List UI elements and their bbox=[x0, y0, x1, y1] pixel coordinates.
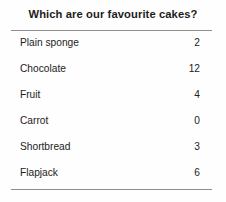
table-bottom-rule bbox=[11, 189, 212, 190]
frequency-table-document: Which are our favourite cakes? Plain spo… bbox=[0, 0, 226, 202]
row-value: 0 bbox=[150, 115, 200, 126]
row-label: Fruit bbox=[20, 89, 40, 100]
table-body: Plain sponge 2 Chocolate 12 Fruit 4 Carr… bbox=[0, 30, 226, 186]
table-row: Flapjack 6 bbox=[0, 160, 226, 186]
table-row: Plain sponge 2 bbox=[0, 30, 226, 56]
row-label: Flapjack bbox=[20, 167, 58, 178]
row-label: Plain sponge bbox=[20, 37, 79, 48]
row-value: 4 bbox=[150, 89, 200, 100]
table-row: Chocolate 12 bbox=[0, 56, 226, 82]
row-value: 12 bbox=[150, 63, 200, 74]
row-value: 6 bbox=[150, 167, 200, 178]
row-value: 2 bbox=[150, 37, 200, 48]
row-label: Carrot bbox=[20, 115, 48, 126]
page-title: Which are our favourite cakes? bbox=[0, 8, 226, 20]
row-value: 3 bbox=[150, 141, 200, 152]
table-row: Shortbread 3 bbox=[0, 134, 226, 160]
table-row: Carrot 0 bbox=[0, 108, 226, 134]
row-label: Chocolate bbox=[20, 63, 66, 74]
row-label: Shortbread bbox=[20, 141, 70, 152]
table-row: Fruit 4 bbox=[0, 82, 226, 108]
